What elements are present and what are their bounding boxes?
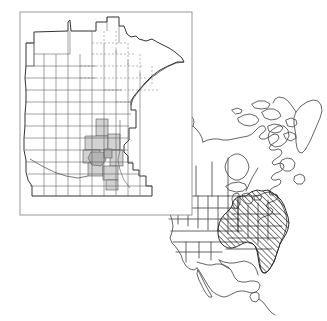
county-core-ramsey: [104, 149, 112, 158]
county-shaded-ne: [108, 134, 120, 150]
map-figure: [0, 0, 327, 321]
minnesota-county-inset: [0, 0, 327, 321]
county-shaded-north: [96, 119, 108, 136]
